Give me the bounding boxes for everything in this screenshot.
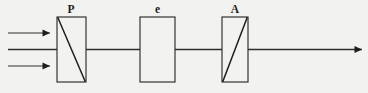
output-beam-arrowhead bbox=[355, 46, 363, 53]
component-sample-cell: e bbox=[140, 3, 175, 82]
schematic-canvas: P e A bbox=[0, 0, 368, 93]
component-group: P e A bbox=[57, 3, 248, 82]
polarizer-label: P bbox=[67, 3, 74, 15]
optical-schematic-figure: P e A bbox=[0, 0, 368, 93]
sample-cell-label: e bbox=[155, 3, 160, 15]
sample-cell-box bbox=[140, 17, 175, 82]
analyzer-label: A bbox=[231, 3, 240, 15]
component-analyzer: A bbox=[222, 3, 248, 82]
input-beam-upper-arrowhead bbox=[43, 29, 51, 36]
input-beam-lower-arrowhead bbox=[43, 62, 51, 69]
component-polarizer: P bbox=[57, 3, 86, 82]
